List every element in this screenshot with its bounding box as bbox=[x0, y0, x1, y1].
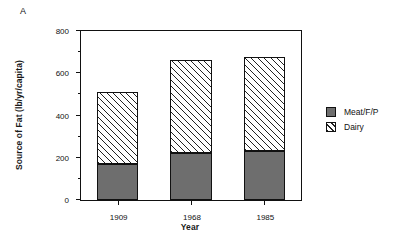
bar-segment-dairy[interactable] bbox=[244, 57, 285, 151]
y-tick: 400 bbox=[76, 115, 81, 116]
legend-item-meat: Meat/F/P bbox=[326, 104, 378, 119]
bar-segment-meat[interactable] bbox=[170, 153, 211, 200]
y-tick-minor bbox=[78, 51, 81, 52]
y-tick-minor bbox=[78, 136, 81, 137]
bar-segment-dairy[interactable] bbox=[170, 60, 211, 153]
y-tick: 800 bbox=[76, 30, 81, 31]
x-tick: 1985 bbox=[264, 200, 265, 205]
plot-area: 0200400600800 190919681985 bbox=[80, 30, 302, 201]
y-tick: 0 bbox=[76, 199, 81, 200]
bar-segment-meat[interactable] bbox=[244, 151, 285, 200]
legend-label-meat: Meat/F/P bbox=[344, 107, 378, 117]
y-tick-minor bbox=[78, 178, 81, 179]
y-tick-label: 800 bbox=[56, 27, 69, 36]
x-tick-label: 1985 bbox=[256, 213, 274, 222]
y-axis-title: Source of Fat (lb/yr/capita) bbox=[12, 30, 26, 200]
y-tick-label: 600 bbox=[56, 69, 69, 78]
legend-item-dairy: Dairy bbox=[326, 119, 378, 134]
x-tick-label: 1968 bbox=[183, 213, 201, 222]
x-tick: 1909 bbox=[118, 200, 119, 205]
y-tick: 200 bbox=[76, 157, 81, 158]
bar-segment-dairy[interactable] bbox=[97, 92, 138, 164]
legend-swatch-meat-icon bbox=[326, 107, 336, 117]
chart-legend: Meat/F/P Dairy bbox=[326, 104, 378, 134]
panel-label: A bbox=[20, 6, 26, 16]
y-tick-minor bbox=[78, 93, 81, 94]
y-tick-label: 200 bbox=[56, 153, 69, 162]
legend-swatch-dairy-icon bbox=[326, 122, 336, 132]
y-tick-label: 400 bbox=[56, 111, 69, 120]
figure-panel-a: A Source of Fat (lb/yr/capita) 020040060… bbox=[0, 0, 397, 245]
bar-segment-meat[interactable] bbox=[97, 164, 138, 200]
y-tick: 600 bbox=[76, 72, 81, 73]
x-axis-title: Year bbox=[80, 222, 300, 232]
x-tick: 1968 bbox=[191, 200, 192, 205]
bar-group[interactable] bbox=[97, 92, 138, 200]
x-tick-label: 1909 bbox=[110, 213, 128, 222]
y-tick-label: 0 bbox=[65, 196, 69, 205]
bar-group[interactable] bbox=[244, 57, 285, 200]
legend-label-dairy: Dairy bbox=[344, 122, 364, 132]
bar-group[interactable] bbox=[170, 60, 211, 200]
